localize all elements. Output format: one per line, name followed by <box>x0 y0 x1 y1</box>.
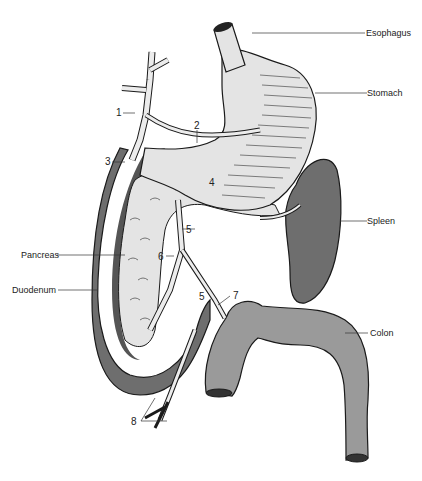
colon <box>205 302 368 460</box>
colon-end-right <box>346 454 368 462</box>
number-5a: 5 <box>186 224 192 235</box>
anatomy-diagram: Esophagus Stomach Spleen Colon Pancreas … <box>0 0 422 481</box>
number-3: 3 <box>105 156 111 167</box>
label-stomach: Stomach <box>367 88 403 98</box>
label-pancreas: Pancreas <box>21 250 60 260</box>
stomach <box>140 49 316 210</box>
number-4: 4 <box>209 177 215 188</box>
label-duodenum: Duodenum <box>12 285 56 295</box>
number-1: 1 <box>116 107 122 118</box>
number-7: 7 <box>233 290 239 301</box>
number-8: 8 <box>131 416 137 427</box>
label-esophagus: Esophagus <box>366 28 412 38</box>
number-2: 2 <box>194 120 200 131</box>
diagram-canvas: Esophagus Stomach Spleen Colon Pancreas … <box>0 0 422 481</box>
number-6: 6 <box>158 251 164 262</box>
number-5b: 5 <box>199 291 205 302</box>
label-colon: Colon <box>370 328 394 338</box>
colon-end-left <box>206 389 232 397</box>
label-spleen: Spleen <box>367 216 395 226</box>
